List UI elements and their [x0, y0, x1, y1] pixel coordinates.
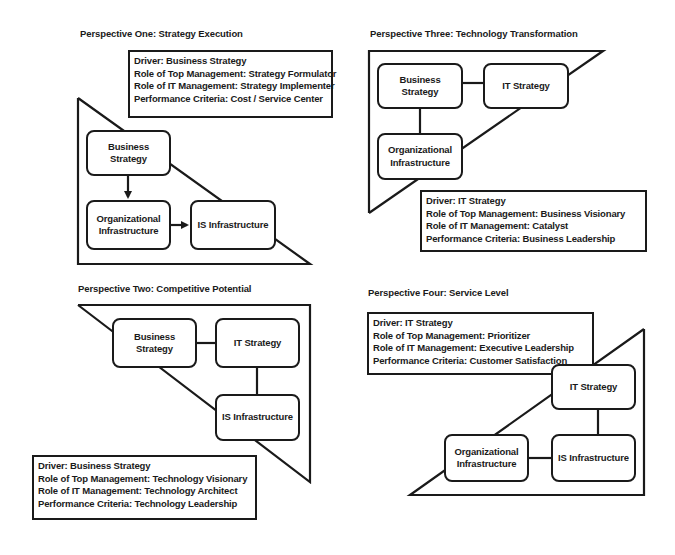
perspective-three-info-box: Driver: IT Strategy Role of Top Manageme…	[420, 190, 647, 252]
node-label: IS Infrastructure	[198, 219, 269, 232]
perspective-two-title: Perspective Two: Competitive Potential	[78, 283, 251, 294]
node-label: Organizational	[455, 446, 519, 459]
p3-node-business-strategy: BusinessStrategy	[377, 63, 463, 109]
it-management-role-text: Role of IT Management: Executive Leaders…	[373, 342, 588, 355]
perspective-four-title: Perspective Four: Service Level	[368, 287, 509, 298]
performance-criteria-text: Performance Criteria: Technology Leaders…	[38, 498, 251, 511]
perspective-two-info-box: Driver: Business Strategy Role of Top Ma…	[32, 455, 257, 520]
p2-node-is-infrastructure: IS Infrastructure	[215, 394, 300, 441]
p3-node-it-strategy: IT Strategy	[483, 63, 569, 109]
performance-criteria-text: Performance Criteria: Business Leadershi…	[426, 233, 641, 246]
top-management-role-text: Role of Top Management: Strategy Formula…	[134, 68, 327, 81]
top-management-role-text: Role of Top Management: Technology Visio…	[38, 473, 251, 486]
driver-text: Driver: Business Strategy	[134, 55, 327, 68]
p2-node-it-strategy: IT Strategy	[215, 318, 300, 368]
node-label: IT Strategy	[234, 337, 281, 350]
p3-node-organizational-infrastructure: OrganizationalInfrastructure	[377, 133, 463, 180]
perspective-three-title: Perspective Three: Technology Transforma…	[370, 28, 578, 39]
node-label: IT Strategy	[502, 80, 549, 93]
perspective-one-title: Perspective One: Strategy Execution	[80, 28, 243, 39]
node-label: Business	[108, 141, 149, 154]
node-label: Infrastructure	[97, 225, 161, 238]
top-management-role-text: Role of Top Management: Prioritizer	[373, 330, 588, 343]
node-label: Strategy	[399, 86, 440, 99]
node-label: Infrastructure	[388, 157, 452, 170]
node-label: IS Infrastructure	[558, 452, 629, 465]
perspective-one-info-box: Driver: Business Strategy Role of Top Ma…	[128, 50, 333, 118]
node-label: Strategy	[134, 343, 175, 356]
node-label: Organizational	[388, 144, 452, 157]
node-label: IS Infrastructure	[222, 411, 293, 424]
node-label: Business	[399, 74, 440, 87]
driver-text: Driver: IT Strategy	[426, 195, 641, 208]
it-management-role-text: Role of IT Management: Technology Archit…	[38, 485, 251, 498]
driver-text: Driver: IT Strategy	[373, 317, 588, 330]
p4-node-organizational-infrastructure: OrganizationalInfrastructure	[444, 434, 529, 482]
driver-text: Driver: Business Strategy	[38, 460, 251, 473]
it-management-role-text: Role of IT Management: Catalyst	[426, 220, 641, 233]
top-management-role-text: Role of Top Management: Business Visiona…	[426, 208, 641, 221]
node-label: IT Strategy	[570, 381, 617, 394]
node-label: Infrastructure	[455, 458, 519, 471]
p2-node-business-strategy: BusinessStrategy	[112, 318, 197, 368]
p4-node-is-infrastructure: IS Infrastructure	[551, 434, 636, 482]
node-label: Strategy	[108, 153, 149, 166]
it-management-role-text: Role of IT Management: Strategy Implemen…	[134, 80, 327, 93]
p1-node-organizational-infrastructure: OrganizationalInfrastructure	[86, 200, 171, 250]
p1-node-business-strategy: BusinessStrategy	[86, 130, 171, 176]
node-label: Business	[134, 331, 175, 344]
p1-node-is-infrastructure: IS Infrastructure	[190, 200, 276, 250]
node-label: Organizational	[97, 213, 161, 226]
p4-node-it-strategy: IT Strategy	[551, 364, 636, 410]
performance-criteria-text: Performance Criteria: Cost / Service Cen…	[134, 93, 327, 106]
